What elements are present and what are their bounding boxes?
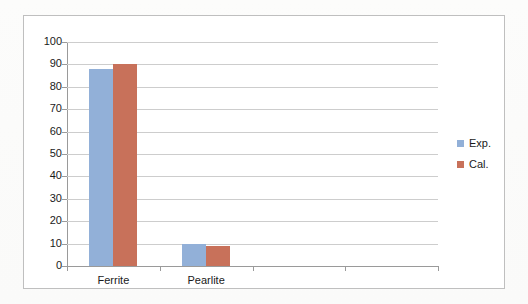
x-axis-tick — [253, 266, 254, 271]
y-axis-tick-label: 20 — [28, 215, 62, 226]
y-axis-tick-label-wrap: 50 — [24, 148, 62, 159]
bar-pearlite-cal — [206, 246, 230, 266]
x-axis-tick — [160, 266, 161, 271]
bar-pearlite-exp — [182, 244, 206, 266]
y-axis-tick-label: 0 — [28, 260, 62, 271]
x-axis-label-pearlite: Pearlite — [160, 274, 253, 286]
y-axis-tick-label-wrap: 90 — [24, 58, 62, 69]
y-axis-tick-label: 80 — [28, 81, 62, 92]
y-axis-tick-label-wrap: 40 — [24, 170, 62, 181]
y-axis-tick-label-wrap: 30 — [24, 193, 62, 204]
y-axis-tick-label: 70 — [28, 103, 62, 114]
chart-screenshot: 0102030405060708090100 FerritePearlite E… — [0, 0, 528, 304]
y-axis-tick-label: 50 — [28, 148, 62, 159]
y-axis-tick-label-wrap: 80 — [24, 81, 62, 92]
x-axis-tick — [345, 266, 346, 271]
chart-legend: Exp.Cal. — [457, 133, 491, 175]
legend-label: Exp. — [469, 138, 491, 149]
y-axis-tick-label: 100 — [28, 36, 62, 47]
bar-ferrite-exp — [89, 69, 113, 266]
x-axis-tick — [438, 266, 439, 271]
y-axis-tick-label-wrap: 60 — [24, 126, 62, 137]
x-axis-tick-origin — [67, 266, 68, 271]
x-axis-label-ferrite: Ferrite — [67, 274, 160, 286]
gridline — [67, 42, 438, 43]
legend-label: Cal. — [469, 159, 489, 170]
legend-swatch-icon — [457, 161, 464, 168]
y-axis-tick-label: 90 — [28, 58, 62, 69]
chart-frame: 0102030405060708090100 FerritePearlite E… — [23, 15, 505, 289]
legend-swatch-icon — [457, 140, 464, 147]
y-axis-tick-label: 60 — [28, 126, 62, 137]
y-axis-tick-label-wrap: 10 — [24, 238, 62, 249]
legend-item-exp[interactable]: Exp. — [457, 133, 491, 154]
y-axis-tick-label: 10 — [28, 238, 62, 249]
y-axis-tick-label-wrap: 100 — [24, 36, 62, 47]
y-axis-tick-label: 40 — [28, 170, 62, 181]
y-axis-tick-label-wrap: 70 — [24, 103, 62, 114]
legend-item-cal[interactable]: Cal. — [457, 154, 491, 175]
y-axis-tick-label-wrap: 20 — [24, 215, 62, 226]
plot-area — [67, 42, 438, 266]
bar-ferrite-cal — [113, 64, 137, 266]
y-axis-tick-label-wrap: 0 — [24, 260, 62, 271]
y-axis-tick-label: 30 — [28, 193, 62, 204]
